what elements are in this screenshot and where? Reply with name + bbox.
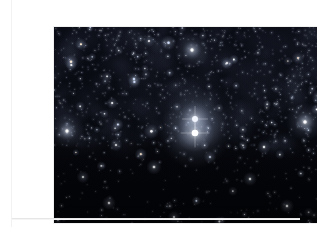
column-rule: [11, 0, 12, 227]
horizontal-rule-highlight: [12, 219, 300, 220]
star-field-canvas: [54, 27, 317, 223]
star-field-photograph: [54, 27, 317, 223]
page-root: [0, 0, 317, 227]
